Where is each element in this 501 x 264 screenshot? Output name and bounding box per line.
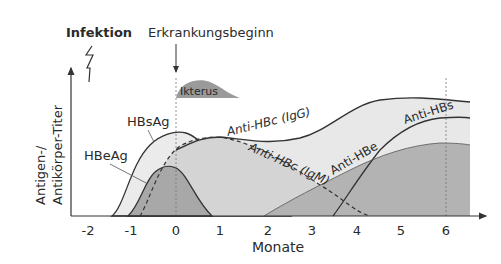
svg-text:0: 0 bbox=[172, 223, 180, 238]
infektion-label: Infektion bbox=[66, 25, 132, 40]
y-axis-label-line1: Antigen-/ bbox=[33, 145, 48, 205]
svg-text:4: 4 bbox=[353, 223, 361, 238]
erkrankungsbeginn-label: Erkrankungsbeginn bbox=[148, 25, 274, 40]
hbeag-label: HBeAg bbox=[84, 148, 128, 163]
anti-hbc-igg-label: Anti-HBc (IgG) bbox=[224, 105, 311, 140]
svg-text:6: 6 bbox=[442, 223, 450, 238]
lightning-icon bbox=[86, 46, 93, 82]
y-axis-label-line2: Antikörper-Titer bbox=[50, 104, 65, 205]
x-tick-labels: -2 -1 0 1 2 3 4 5 6 bbox=[82, 223, 451, 238]
svg-text:-1: -1 bbox=[125, 223, 138, 238]
svg-text:1: 1 bbox=[216, 223, 224, 238]
x-axis-label: Monate bbox=[252, 239, 304, 255]
svg-text:5: 5 bbox=[397, 223, 405, 238]
svg-text:2: 2 bbox=[264, 223, 272, 238]
hbsag-label: HBsAg bbox=[127, 114, 170, 129]
svg-text:3: 3 bbox=[308, 223, 316, 238]
svg-text:-2: -2 bbox=[82, 223, 95, 238]
hepatitis-b-course-diagram: Ikterus -2 -1 0 1 2 3 4 5 6 Monate Antig… bbox=[0, 0, 501, 264]
ikterus-label: Ikterus bbox=[180, 85, 218, 98]
